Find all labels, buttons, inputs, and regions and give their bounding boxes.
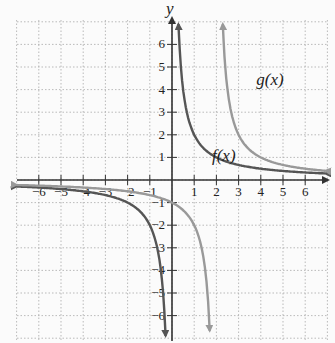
curve-g-left	[17, 185, 210, 331]
y-tick-label: 1	[159, 149, 166, 164]
graph: y−6−5−4−3−2−1123456−6−5−4−3−2−1123456f(x…	[0, 0, 335, 343]
x-tick-label: 1	[191, 184, 198, 199]
coordinate-plane: y−6−5−4−3−2−1123456−6−5−4−3−2−1123456f(x…	[0, 0, 335, 343]
x-tick-label: 4	[258, 184, 265, 199]
curve-g-right	[223, 24, 325, 171]
f-label: f(x)	[212, 146, 236, 165]
y-tick-label: −2	[151, 217, 165, 232]
g-label: g(x)	[256, 70, 284, 89]
x-tick-label: 2	[213, 184, 220, 199]
y-axis-label: y	[164, 0, 174, 18]
y-tick-label: 4	[159, 82, 166, 97]
x-tick-label: 6	[302, 184, 309, 199]
y-tick-label: 5	[159, 59, 166, 74]
y-tick-label: 2	[159, 127, 166, 142]
y-tick-label: 6	[159, 36, 166, 51]
curve-f-left	[17, 187, 166, 336]
x-tick-label: 5	[280, 184, 287, 199]
y-tick-label: 3	[159, 104, 166, 119]
x-tick-label: 3	[235, 184, 242, 199]
y-tick-label: −4	[151, 262, 165, 277]
